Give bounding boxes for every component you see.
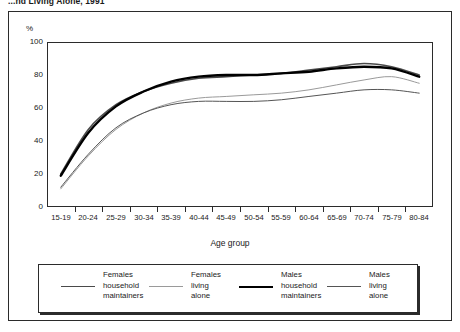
x-axis-tick — [130, 207, 131, 212]
x-axis-tick — [378, 207, 379, 212]
x-axis-tick — [268, 207, 269, 212]
y-axis-tick-label: 60 — [19, 104, 43, 112]
x-axis-tick — [212, 207, 213, 212]
y-axis-tick-label: 40 — [19, 137, 43, 145]
y-axis-tick-label: 100 — [19, 38, 43, 46]
legend: FemaleshouseholdmaintainersFemalesliving… — [38, 264, 418, 313]
legend-line-swatch — [239, 286, 273, 288]
x-axis-tick — [240, 207, 241, 212]
x-axis-tick — [405, 207, 406, 212]
series-line — [61, 67, 419, 176]
x-axis-tick — [323, 207, 324, 212]
x-axis-tick — [102, 207, 103, 212]
data-series-lines — [47, 42, 433, 207]
x-axis-tick — [75, 207, 76, 212]
legend-line-swatch — [327, 286, 361, 287]
x-axis-tick — [185, 207, 186, 212]
figure-container: ...nd Living Alone, 1991 % 020406080100 … — [0, 0, 460, 332]
x-axis-tick — [350, 207, 351, 212]
y-axis-tick-label: 20 — [19, 170, 43, 178]
series-line — [61, 89, 419, 187]
y-axis-tick-label: 0 — [19, 203, 43, 211]
legend-label: Maleslivingalone — [369, 270, 441, 302]
x-axis-tick — [157, 207, 158, 212]
series-line — [61, 77, 419, 189]
x-axis-tick-label: 80-84 — [399, 213, 439, 223]
legend-line-swatch — [61, 286, 95, 287]
x-axis-tick — [295, 207, 296, 212]
y-axis-tick-label: 80 — [19, 71, 43, 79]
legend-line-swatch — [149, 286, 183, 287]
x-axis-title: Age group — [0, 238, 460, 248]
